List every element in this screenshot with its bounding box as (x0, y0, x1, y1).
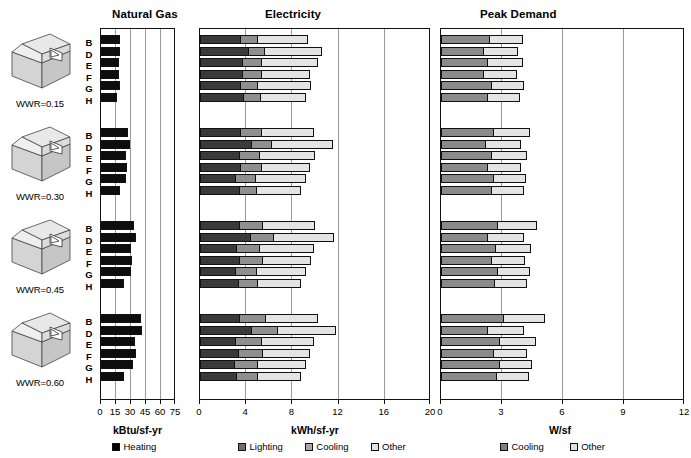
legend-item-cooling: Cooling (500, 441, 544, 452)
row-letter-b: B (80, 38, 98, 47)
bar-segment-lighting (201, 280, 238, 287)
tick-label: 4 (230, 406, 260, 417)
bar-segment-heating (102, 152, 125, 159)
legend-peak-demand: CoolingOther (500, 441, 605, 452)
bar-h-g1 (441, 93, 520, 102)
bar-segment-heating (102, 94, 116, 101)
bar-segment-other (262, 350, 309, 357)
bar-e-g2 (441, 151, 527, 160)
row-letter-g: G (80, 363, 98, 372)
bar-segment-cooling (238, 350, 262, 357)
bar-segment-other (491, 152, 526, 159)
bar-segment-cooling (442, 234, 487, 241)
gridline (338, 29, 339, 399)
bar-f-g2 (441, 163, 521, 172)
bar-segment-other (487, 327, 523, 334)
bar-segment-lighting (201, 338, 235, 345)
bar-e-g3 (441, 244, 531, 253)
row-letter-h: H (80, 96, 98, 105)
bar-e-g4 (441, 337, 536, 346)
bar-segment-heating (102, 71, 118, 78)
bar-segment-other (257, 373, 300, 380)
legend-item-other: Other (570, 441, 605, 452)
bar-segment-cooling (240, 129, 261, 136)
bar-segment-cooling (442, 175, 493, 182)
bar-segment-other (264, 48, 321, 55)
bar-g-g3 (101, 267, 131, 276)
bar-e-g1 (441, 58, 523, 67)
bar-e-g1 (200, 58, 318, 67)
bar-segment-cooling (442, 257, 491, 264)
bar-h-g2 (101, 186, 120, 195)
bar-segment-other (487, 164, 520, 171)
bar-segment-cooling (239, 222, 262, 229)
row-letter-b: B (80, 317, 98, 326)
plot-area-natural-gas (100, 28, 175, 400)
bar-segment-heating (102, 175, 125, 182)
legend-swatch-icon (371, 443, 379, 451)
bar-segment-cooling (442, 361, 499, 368)
wwr-icon-column: WWR=0.15WWR=0.30WWR=0.45WWR=0.60 (0, 28, 80, 400)
bar-d-g4 (200, 326, 336, 335)
bar-segment-cooling (442, 245, 495, 252)
tick-mark (174, 400, 175, 404)
bar-segment-cooling (442, 268, 497, 275)
bar-segment-heating (102, 129, 127, 136)
row-letter-h: H (80, 282, 98, 291)
bar-g-g2 (441, 174, 526, 183)
bar-segment-cooling (442, 280, 494, 287)
row-letter-f: F (80, 259, 98, 268)
bar-segment-other (489, 36, 522, 43)
bar-segment-other (497, 268, 529, 275)
bar-b-g4 (441, 314, 545, 323)
bar-b-g1 (101, 35, 120, 44)
bar-d-g2 (200, 140, 333, 149)
bar-f-g3 (441, 256, 525, 265)
tick-label: 3 (486, 406, 516, 417)
bar-segment-lighting (201, 327, 251, 334)
bar-segment-heating (102, 338, 134, 345)
row-letter-d: D (80, 329, 98, 338)
bar-g-g4 (441, 360, 532, 369)
bar-segment-other (257, 280, 300, 287)
bar-d-g2 (101, 140, 130, 149)
bar-segment-lighting (201, 257, 239, 264)
tick-label: 9 (608, 406, 638, 417)
tick-label: 12 (323, 406, 353, 417)
bar-e-g2 (101, 151, 126, 160)
bar-g-g2 (101, 174, 126, 183)
bar-segment-other (491, 187, 523, 194)
bar-segment-other (261, 59, 317, 66)
bar-g-g4 (101, 360, 133, 369)
wwr-label: WWR=0.15 (0, 98, 80, 109)
bar-segment-cooling (240, 164, 261, 171)
bar-segment-cooling (442, 141, 485, 148)
bar-d-g1 (441, 47, 518, 56)
bar-segment-other (255, 175, 305, 182)
bar-segment-cooling (243, 94, 260, 101)
legend-swatch-icon (570, 443, 578, 451)
bar-segment-lighting (201, 175, 235, 182)
bar-segment-other (256, 268, 305, 275)
bar-e-g4 (200, 337, 314, 346)
bar-segment-other (261, 71, 309, 78)
gridline (562, 29, 563, 399)
bar-segment-lighting (201, 152, 239, 159)
bar-segment-lighting (201, 59, 242, 66)
row-letter-b: B (80, 224, 98, 233)
legend-label: Other (382, 441, 406, 452)
bar-b-g3 (200, 221, 315, 230)
legend-label: Cooling (316, 441, 348, 452)
bar-segment-other (494, 280, 526, 287)
bar-b-g2 (441, 128, 530, 137)
bar-b-g2 (200, 128, 314, 137)
tick-mark (100, 400, 101, 404)
bar-segment-cooling (251, 327, 276, 334)
bar-segment-other (487, 234, 523, 241)
tick-label: 8 (276, 406, 306, 417)
row-letter-h: H (80, 375, 98, 384)
bar-h-g2 (200, 186, 301, 195)
row-letter-b: B (80, 131, 98, 140)
bar-segment-heating (102, 187, 119, 194)
bar-segment-other (259, 152, 314, 159)
